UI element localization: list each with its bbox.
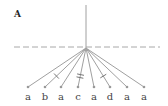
leaf-node — [44, 86, 47, 89]
leaf-node — [93, 86, 96, 89]
branches — [28, 48, 144, 87]
leaf-label: a — [58, 91, 64, 102]
leaf-label: d — [107, 91, 114, 102]
leaf-labels: abacadaa — [25, 91, 147, 102]
leaf-label: a — [124, 91, 130, 102]
branch — [45, 48, 86, 87]
leaf-node — [60, 86, 63, 89]
leaf-label: a — [25, 91, 31, 102]
star-phylogeny-diagram: A abacadaa — [0, 0, 168, 106]
mutation-tick — [77, 74, 84, 75]
leaf-node — [126, 86, 129, 89]
mutation-tick — [100, 74, 106, 78]
leaf-node — [143, 86, 146, 89]
leaves — [27, 86, 146, 89]
leaf-node — [77, 86, 80, 89]
leaf-label: a — [91, 91, 97, 102]
leaf-node — [27, 86, 30, 89]
branch — [28, 48, 86, 87]
branch — [86, 48, 144, 87]
leaf-label: c — [75, 91, 81, 102]
leaf-node — [109, 86, 112, 89]
leaf-label: a — [141, 91, 147, 102]
mutation-tick — [77, 77, 84, 78]
leaf-label: b — [42, 91, 48, 102]
panel-label: A — [13, 9, 22, 19]
